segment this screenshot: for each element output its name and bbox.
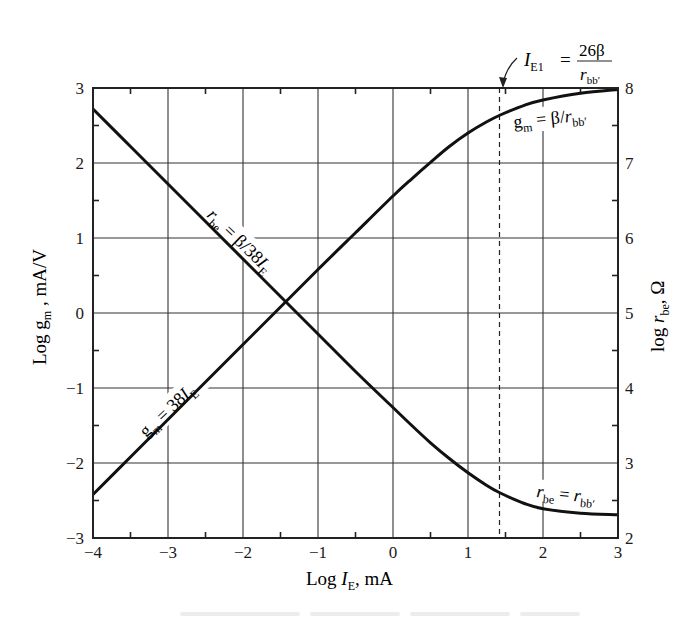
x-tick-label: −4 bbox=[84, 543, 103, 562]
faded-caption bbox=[180, 612, 580, 616]
x-tick-label: 2 bbox=[539, 543, 548, 562]
y2-tick-label: 2 bbox=[625, 529, 634, 548]
y-tick-label: 0 bbox=[76, 304, 85, 323]
svg-text:IE1: IE1 bbox=[523, 49, 544, 74]
x-tick-label: −3 bbox=[159, 543, 177, 562]
annotation-ie1: IE1 = 26β rbb′ bbox=[499, 41, 612, 88]
x-tick-label: −1 bbox=[309, 543, 327, 562]
rbe-curve bbox=[93, 109, 618, 515]
x-tick-label: 1 bbox=[464, 543, 473, 562]
x-axis-label: Log IE, mA bbox=[306, 568, 393, 593]
x-tick-label: 0 bbox=[389, 543, 398, 562]
arrowhead-icon bbox=[499, 77, 507, 88]
svg-text:=: = bbox=[560, 49, 571, 70]
y2-tick-label: 5 bbox=[625, 304, 634, 323]
chart: −4−3−2−10123−3−2−101232345678 Log IE, mA… bbox=[0, 0, 685, 622]
y-tick-label: 1 bbox=[76, 229, 85, 248]
y-tick-label: 3 bbox=[76, 79, 85, 98]
y2-tick-label: 3 bbox=[625, 454, 634, 473]
annotation-rbe-low: rbe = β/38IE bbox=[200, 204, 276, 279]
x-tick-label: 3 bbox=[614, 543, 623, 562]
grid-lines bbox=[93, 88, 618, 538]
y-tick-label: −1 bbox=[66, 379, 84, 398]
y2-tick-label: 6 bbox=[625, 229, 634, 248]
y-tick-label: −3 bbox=[66, 529, 84, 548]
y2-tick-label: 8 bbox=[625, 79, 634, 98]
svg-text:rbb′: rbb′ bbox=[580, 65, 600, 86]
y-tick-label: 2 bbox=[76, 154, 85, 173]
label-backgrounds bbox=[132, 100, 611, 508]
svg-text:26β: 26β bbox=[579, 41, 605, 60]
x-tick-label: −2 bbox=[234, 543, 252, 562]
y-tick-label: −2 bbox=[66, 454, 84, 473]
y2-axis-label: log rbe, Ω bbox=[647, 281, 672, 352]
y2-tick-label: 7 bbox=[625, 154, 634, 173]
y-axis-label: Log gm , mA/V bbox=[29, 249, 54, 365]
y2-tick-label: 4 bbox=[625, 379, 634, 398]
gm-curve bbox=[93, 90, 618, 495]
